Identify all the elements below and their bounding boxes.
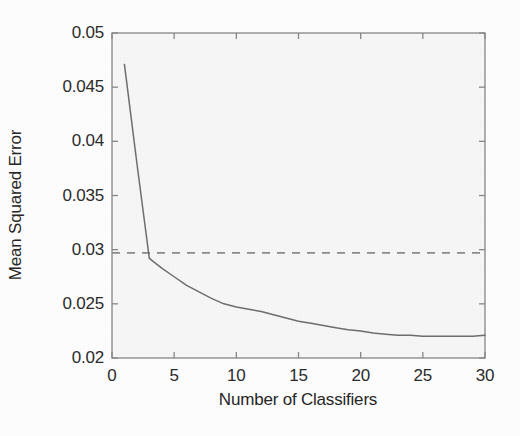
x-tick-label: 5 xyxy=(170,366,179,386)
chart-figure: 0.020.0250.030.0350.040.0450.05 05101520… xyxy=(0,0,520,436)
x-tick-label: 30 xyxy=(476,366,495,386)
x-axis-title: Number of Classifiers xyxy=(219,390,377,410)
x-tick-label: 25 xyxy=(414,366,433,386)
y-tick-label: 0.03 xyxy=(72,240,104,260)
y-tick-label: 0.045 xyxy=(62,77,104,97)
y-tick-label: 0.035 xyxy=(62,186,104,206)
x-tick-label: 10 xyxy=(227,366,246,386)
x-tick-label: 0 xyxy=(107,366,116,386)
y-axis-title: Mean Squared Error xyxy=(6,130,26,280)
y-tick-label: 0.04 xyxy=(72,131,104,151)
x-tick-label: 15 xyxy=(289,366,308,386)
y-tick-label: 0.025 xyxy=(62,294,104,314)
x-tick-label: 20 xyxy=(351,366,370,386)
y-tick-label: 0.05 xyxy=(72,23,104,43)
plot-background xyxy=(112,33,485,358)
plot-canvas xyxy=(0,0,520,436)
y-tick-label: 0.02 xyxy=(72,348,104,368)
